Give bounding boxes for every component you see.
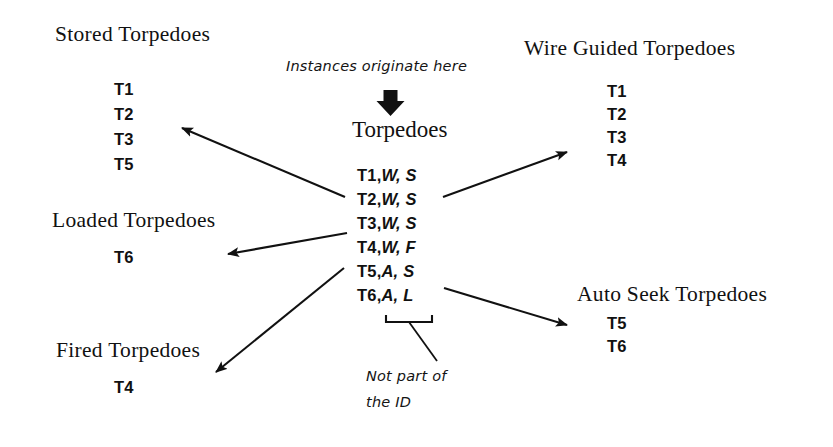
instance-id: T1, bbox=[357, 166, 381, 184]
set-title-wire-guided: Wire Guided Torpedoes bbox=[524, 36, 735, 61]
set-title-fired: Fired Torpedoes bbox=[56, 338, 200, 363]
instance-row: T5,A, S bbox=[357, 262, 414, 281]
wire-guided-member-3: T4 bbox=[607, 151, 627, 170]
auto-seek-member-0: T5 bbox=[607, 314, 627, 333]
instance-attributes: W, F bbox=[381, 238, 415, 256]
source-entity-name: Torpedoes bbox=[352, 117, 447, 143]
arrow-to-wire-guided bbox=[443, 152, 567, 197]
instance-attributes: A, S bbox=[381, 262, 414, 280]
instance-id: T5, bbox=[357, 262, 381, 280]
loaded-member-0: T6 bbox=[114, 248, 134, 267]
instance-row: T3,W, S bbox=[357, 214, 417, 233]
brace-note-line-1: Not part of bbox=[366, 368, 447, 384]
stored-member-1: T2 bbox=[114, 105, 134, 124]
wire-guided-member-1: T2 bbox=[607, 105, 627, 124]
auto-seek-member-1: T6 bbox=[607, 337, 627, 356]
set-title-auto-seek: Auto Seek Torpedoes bbox=[577, 282, 767, 307]
instance-row: T2,W, S bbox=[357, 190, 417, 209]
arrow-to-auto-seek bbox=[444, 288, 567, 325]
set-title-stored: Stored Torpedoes bbox=[55, 22, 210, 47]
instance-attributes: W, S bbox=[381, 214, 416, 232]
instance-id: T2, bbox=[357, 190, 381, 208]
instance-row: T6,A, L bbox=[357, 286, 413, 305]
arrow-to-stored bbox=[182, 128, 345, 197]
stored-member-0: T1 bbox=[114, 80, 134, 99]
instance-attributes: W, S bbox=[381, 166, 416, 184]
arrow-to-fired bbox=[216, 268, 344, 372]
set-title-loaded: Loaded Torpedoes bbox=[52, 208, 216, 233]
instance-id: T3, bbox=[357, 214, 381, 232]
brace-note-line-2: the ID bbox=[366, 394, 411, 410]
stored-member-3: T5 bbox=[114, 155, 134, 174]
instance-id: T4, bbox=[357, 238, 381, 256]
instance-attributes: A, L bbox=[381, 286, 413, 304]
attribute-brace bbox=[386, 315, 437, 361]
instance-row: T1,W, S bbox=[357, 166, 417, 185]
thick-down-arrow-icon bbox=[377, 90, 405, 116]
fired-member-0: T4 bbox=[114, 378, 134, 397]
origin-note: Instances originate here bbox=[286, 58, 467, 74]
instance-id: T6, bbox=[357, 286, 381, 304]
diagram-canvas: Stored Torpedoes T1 T2 T3 T5 Loaded Torp… bbox=[0, 0, 833, 447]
wire-guided-member-2: T3 bbox=[607, 128, 627, 147]
stored-member-2: T3 bbox=[114, 130, 134, 149]
arrow-to-loaded bbox=[228, 233, 347, 254]
instance-row: T4,W, F bbox=[357, 238, 416, 257]
wire-guided-member-0: T1 bbox=[607, 82, 627, 101]
instance-attributes: W, S bbox=[381, 190, 416, 208]
